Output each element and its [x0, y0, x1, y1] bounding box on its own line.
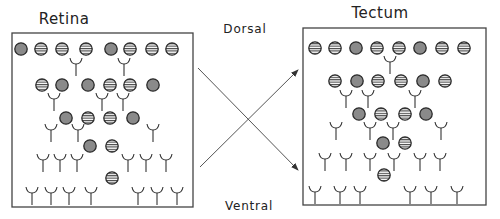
receptor-icon	[404, 186, 416, 204]
cell-striped-icon	[395, 75, 407, 87]
cell-striped-icon	[458, 42, 470, 54]
receptor-icon	[362, 90, 374, 108]
diagram-canvas	[0, 0, 500, 219]
receptor-icon	[435, 122, 447, 140]
receptor-icon	[37, 154, 49, 172]
receptor-icon	[70, 58, 82, 76]
receptor-icon	[132, 187, 144, 205]
receptor-icon	[319, 153, 331, 171]
cell-solid-icon	[350, 42, 362, 54]
cell-striped-icon	[146, 43, 158, 55]
receptor-icon	[414, 153, 426, 171]
cell-striped-icon	[104, 79, 116, 91]
receptor-icon	[409, 90, 421, 108]
receptor-icon	[140, 154, 152, 172]
projection-arrows	[198, 68, 298, 170]
cell-striped-icon	[82, 112, 94, 124]
receptor-icon	[330, 122, 342, 140]
cell-striped-icon	[393, 42, 405, 54]
receptor-icon	[85, 187, 97, 205]
receptor-icon	[387, 122, 399, 140]
receptor-icon	[72, 124, 84, 142]
receptor-icon	[171, 187, 183, 205]
retinotectal-diagram: Retina Tectum Dorsal Ventral	[0, 0, 500, 219]
cell-striped-icon	[436, 42, 448, 54]
receptor-icon	[45, 187, 57, 205]
receptor-icon	[45, 124, 57, 142]
cell-solid-icon	[56, 79, 68, 91]
cell-striped-icon	[166, 43, 178, 55]
cell-solid-icon	[414, 42, 426, 54]
receptor-icon	[151, 187, 163, 205]
cell-striped-icon	[309, 42, 321, 54]
cell-solid-icon	[420, 108, 432, 120]
cell-striped-icon	[106, 172, 118, 184]
cell-striped-icon	[56, 43, 68, 55]
cell-striped-icon	[36, 79, 48, 91]
cell-striped-icon	[399, 137, 411, 149]
cell-striped-icon	[378, 169, 390, 181]
cell-solid-icon	[105, 43, 117, 55]
receptor-icon	[451, 186, 463, 204]
tectum-panel	[303, 28, 486, 205]
receptor-icon	[340, 153, 352, 171]
receptor-icon	[96, 93, 108, 111]
retina-panel	[12, 33, 193, 207]
cell-striped-icon	[35, 43, 47, 55]
receptor-icon	[63, 187, 75, 205]
cell-striped-icon	[106, 140, 118, 152]
cell-solid-icon	[147, 79, 159, 91]
cell-solid-icon	[60, 112, 72, 124]
cell-striped-icon	[375, 108, 387, 120]
cell-striped-icon	[124, 79, 136, 91]
receptor-icon	[118, 58, 130, 76]
cell-striped-icon	[329, 42, 341, 54]
cell-solid-icon	[15, 43, 27, 55]
receptor-icon	[388, 153, 400, 171]
cell-solid-icon	[377, 137, 389, 149]
receptor-icon	[364, 122, 376, 140]
receptor-icon	[54, 154, 66, 172]
cell-striped-icon	[372, 75, 384, 87]
cell-solid-icon	[417, 75, 429, 87]
cell-striped-icon	[399, 108, 411, 120]
receptor-icon	[434, 153, 446, 171]
cell-striped-icon	[371, 42, 383, 54]
retina-box	[12, 33, 193, 207]
receptor-icon	[71, 154, 83, 172]
receptor-icon	[309, 186, 321, 204]
cell-solid-icon	[84, 140, 96, 152]
cell-striped-icon	[439, 75, 451, 87]
tectum-box	[303, 28, 486, 205]
cell-solid-icon	[82, 79, 94, 91]
receptor-icon	[117, 93, 129, 111]
receptor-icon	[340, 90, 352, 108]
cell-striped-icon	[329, 75, 341, 87]
receptor-icon	[364, 153, 376, 171]
receptor-icon	[334, 186, 346, 204]
receptor-icon	[425, 186, 437, 204]
cell-striped-icon	[124, 43, 136, 55]
cell-solid-icon	[127, 112, 139, 124]
cell-solid-icon	[351, 75, 363, 87]
receptor-icon	[147, 124, 159, 142]
receptor-icon	[354, 186, 366, 204]
receptor-icon	[48, 93, 60, 111]
cell-striped-icon	[104, 112, 116, 124]
cell-striped-icon	[80, 43, 92, 55]
receptor-icon	[26, 187, 38, 205]
receptor-icon	[122, 154, 134, 172]
receptor-icon	[160, 154, 172, 172]
cell-solid-icon	[353, 108, 365, 120]
receptor-icon	[384, 56, 396, 74]
